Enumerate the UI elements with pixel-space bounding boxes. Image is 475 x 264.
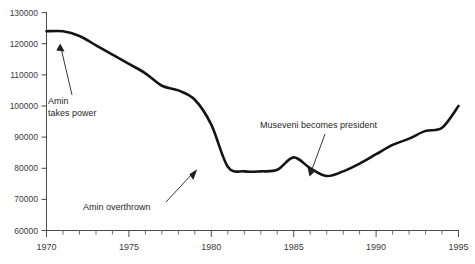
y-axis-ticks: [42, 13, 47, 231]
annotation-label: Amin overthrown: [83, 202, 151, 212]
annotation-leader-line: [311, 134, 325, 172]
axes: [47, 12, 460, 231]
annotation-label: Museveni becomes president: [260, 120, 378, 130]
y-axis-label-90000: 90000: [14, 132, 38, 142]
y-axis-label-130000: 130000: [10, 8, 39, 18]
x-axis-label-1995: 1995: [448, 242, 468, 252]
line-chart: 60000 70000 80000 90000 100000 110000 12…: [0, 0, 475, 264]
data-series-line: [47, 31, 459, 176]
y-axis-label-110000: 110000: [10, 70, 38, 80]
x-axis-label-1985: 1985: [284, 242, 304, 252]
chart-canvas: 60000 70000 80000 90000 100000 110000 12…: [0, 0, 475, 264]
annotation-label-line2: takes power: [48, 108, 97, 118]
annotation-leader-line: [61, 48, 72, 95]
x-axis-ticks: [47, 231, 459, 238]
annotation-amin-overthrown: Amin overthrown: [83, 169, 197, 212]
annotation-amin-takes-power: Amin takes power: [48, 44, 97, 119]
x-axis-label-1975: 1975: [119, 242, 139, 252]
annotation-label-line1: Amin: [48, 96, 69, 106]
y-axis-label-70000: 70000: [14, 194, 38, 204]
annotation-leader-line: [166, 173, 193, 202]
x-axis-label-1970: 1970: [36, 242, 56, 252]
annotation-arrow-head: [56, 44, 64, 52]
y-axis-label-100000: 100000: [10, 101, 39, 111]
annotation-arrow-head: [189, 169, 197, 180]
y-axis-label-60000: 60000: [14, 226, 38, 236]
y-axis-label-120000: 120000: [10, 39, 39, 49]
x-axis-labels: 1970 1975 1980 1985 1990 1995: [36, 242, 468, 252]
x-axis-label-1990: 1990: [366, 242, 386, 252]
x-axis-label-1980: 1980: [201, 242, 221, 252]
y-axis-labels: 60000 70000 80000 90000 100000 110000 12…: [10, 8, 39, 236]
y-axis-label-80000: 80000: [14, 163, 38, 173]
